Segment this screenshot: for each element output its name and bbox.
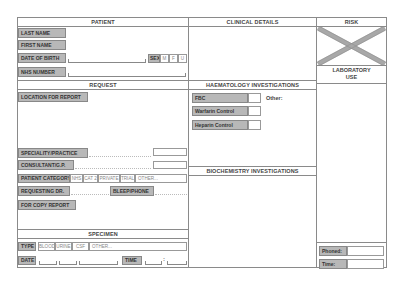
consultant-code-box[interactable] [153, 161, 187, 169]
sex-option-u[interactable]: U [178, 54, 187, 63]
specimen-date-label: DATE [18, 256, 36, 265]
heparin-control-label: Heparin Control [192, 120, 248, 130]
category-option-private[interactable]: PRIVATE [98, 174, 120, 183]
biochemistry-header: BIOCHEMISTRY INVESTIGATIONS [188, 166, 317, 176]
time-separator: : [163, 256, 165, 262]
requesting-dr-field[interactable] [71, 194, 109, 195]
dob-field[interactable] [68, 59, 146, 63]
consultant-label: CONSULTANT/G.P. [18, 160, 74, 170]
category-option-trial[interactable]: TRIAL [120, 174, 135, 183]
category-option-other[interactable]: OTHER... [135, 174, 187, 183]
cross-out-icon [317, 27, 386, 65]
type-option-urine[interactable]: URINE [55, 242, 72, 251]
time-label: Time: [319, 259, 347, 269]
type-option-csf[interactable]: CSF [72, 242, 89, 251]
speciality-field[interactable] [89, 156, 151, 157]
last-name-field[interactable] [68, 28, 186, 38]
time-field[interactable] [347, 259, 384, 269]
risk-header: RISK [316, 17, 387, 27]
copy-report-label: FOR COPY REPORT [18, 200, 76, 210]
category-option-cat2[interactable]: CAT 2 [83, 174, 98, 183]
nhs-number-field[interactable] [68, 73, 186, 77]
phoned-label: Phoned: [319, 246, 347, 256]
sex-label: SEX [148, 54, 160, 63]
category-option-nhs[interactable]: NHS [70, 174, 83, 183]
lab-use-line1: LABORATORY [316, 67, 387, 74]
time-minute-field[interactable] [167, 261, 187, 265]
biochemistry-field[interactable] [189, 177, 315, 267]
nhs-number-label: NHS NUMBER [18, 67, 66, 77]
location-for-report-label: LOCATION FOR REPORT [18, 92, 88, 102]
time-hour-field[interactable] [145, 261, 162, 265]
warfarin-control-label: Warfarin Control [192, 106, 248, 116]
risk-box[interactable] [317, 27, 386, 65]
clinical-details-header: CLINICAL DETAILS [188, 17, 317, 27]
haematology-other-field[interactable] [265, 104, 315, 164]
specimen-type-label: TYPE [18, 242, 36, 251]
dob-label: DATE OF BIRTH [18, 53, 66, 63]
sex-option-f[interactable]: F [169, 54, 178, 63]
specimen-time-label: TIME [122, 256, 142, 265]
clinical-details-field[interactable] [189, 28, 315, 80]
date-month-field[interactable] [59, 261, 77, 265]
sex-option-m[interactable]: M [160, 54, 169, 63]
date-day-field[interactable] [39, 261, 57, 265]
warfarin-control-checkbox[interactable] [248, 106, 261, 116]
laboratory-use-header: LABORATORY USE [316, 67, 387, 81]
first-name-field[interactable] [68, 40, 186, 50]
heparin-control-checkbox[interactable] [248, 120, 261, 130]
laboratory-use-field[interactable] [317, 84, 386, 239]
speciality-label: SPECIALITY/PRACTICE [18, 148, 88, 158]
first-name-label: FIRST NAME [18, 40, 66, 50]
specimen-header: SPECIMEN [17, 229, 189, 239]
requesting-dr-label: REQUESTING DR. [18, 186, 70, 196]
speciality-code-box[interactable] [153, 148, 187, 156]
lab-use-line2: USE [316, 74, 387, 81]
phoned-field[interactable] [347, 246, 384, 256]
copy-report-field[interactable] [18, 211, 186, 227]
type-option-other[interactable]: OTHER... [89, 242, 187, 251]
risk-lab-divider [316, 65, 387, 66]
patient-category-label: PATIENT CATEGORY [18, 174, 70, 183]
patient-header: PATIENT [17, 17, 189, 27]
fbc-label: FBC [192, 93, 248, 103]
haematology-header: HAEMATOLOGY INVESTIGATIONS [188, 80, 317, 90]
type-option-blood[interactable]: BLOOD [38, 242, 55, 251]
location-for-report-field[interactable] [18, 103, 186, 143]
phoned-divider [316, 242, 387, 243]
fbc-checkbox[interactable] [248, 93, 261, 103]
other-label: Other: [266, 95, 283, 101]
date-year-field[interactable] [79, 261, 118, 265]
request-header: REQUEST [17, 80, 189, 90]
last-name-label: LAST NAME [18, 28, 66, 38]
bleep-phone-field[interactable] [155, 194, 187, 195]
bleep-phone-label: BLEEP/PHONE [110, 186, 154, 196]
consultant-field[interactable] [75, 168, 151, 169]
